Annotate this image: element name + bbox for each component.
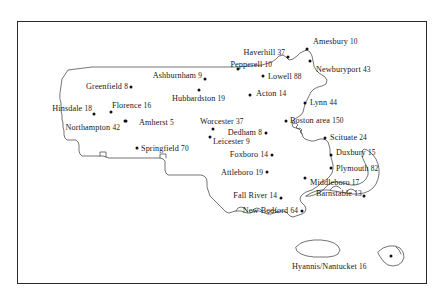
city-name: Haverhill	[243, 48, 277, 57]
city-name: Pepperell	[230, 60, 264, 69]
city-value: 16	[359, 262, 367, 271]
city-dot	[198, 89, 201, 92]
city-dot	[287, 56, 290, 59]
city-label: Acton 14	[256, 89, 286, 98]
city-label: Dedham 8	[228, 128, 262, 137]
city-label: Attleboro 19	[221, 168, 263, 177]
city-dot	[124, 120, 127, 123]
city-name: Boston area	[290, 116, 332, 125]
city-value: 9	[246, 137, 250, 146]
city-value: 37	[277, 48, 285, 57]
city-value: 64	[290, 206, 298, 215]
city-dot	[306, 48, 309, 51]
city-dot	[136, 147, 139, 150]
city-dot	[390, 255, 393, 258]
city-dot	[271, 154, 274, 157]
city-value: 16	[144, 101, 152, 110]
city-dot	[212, 128, 215, 131]
city-value: 44	[329, 98, 337, 107]
city-label: Middleboro 17	[310, 178, 359, 187]
city-value: 37	[236, 117, 244, 126]
city-value: 24	[359, 133, 367, 142]
city-name: Hubbardston	[172, 94, 218, 103]
city-name: Lowell	[268, 72, 294, 81]
city-dot	[301, 210, 304, 213]
city-name: Amherst	[139, 118, 170, 127]
city-name: Fall River	[233, 191, 269, 200]
massachusetts-map-figure: Amesbury 10Haverhill 37Newburyport 43Pep…	[0, 0, 445, 305]
city-dot	[309, 60, 312, 63]
city-dot	[266, 171, 269, 174]
city-dot	[330, 167, 333, 170]
city-value: 14	[260, 150, 268, 159]
city-value: 17	[352, 178, 360, 187]
city-dot	[304, 177, 307, 180]
city-value: 88	[294, 72, 302, 81]
city-value: 43	[363, 65, 371, 74]
city-value: 82	[371, 164, 379, 173]
city-label: Boston area 150	[290, 116, 344, 125]
city-label: Pepperell 10	[230, 60, 272, 69]
city-label: Newburyport 43	[316, 65, 371, 74]
city-name: Amesbury	[313, 37, 350, 46]
city-dot	[363, 195, 366, 198]
marthas-vineyard-outline	[296, 240, 340, 257]
city-dot	[280, 197, 283, 200]
city-name: Florence	[112, 101, 144, 110]
city-value: 18	[84, 104, 92, 113]
city-value: 9	[198, 71, 202, 80]
city-label: New Bedford 64	[243, 206, 298, 215]
city-dot	[249, 94, 252, 97]
city-name: Springfield	[141, 144, 181, 153]
city-value: 150	[332, 116, 343, 125]
city-value: 8	[124, 82, 128, 91]
city-dot	[204, 78, 207, 81]
massachusetts-outline	[0, 0, 445, 305]
city-name: Hinsdale	[52, 104, 84, 113]
city-dot	[324, 137, 327, 140]
city-name: Attleboro	[221, 168, 255, 177]
city-name: Foxboro	[230, 150, 261, 159]
city-name: Ashburnham	[153, 71, 198, 80]
city-label: Duxbury 15	[336, 148, 376, 157]
city-dot	[93, 113, 96, 116]
city-name: Duxbury	[336, 148, 368, 157]
city-value: 10	[350, 37, 358, 46]
city-name: New Bedford	[243, 206, 291, 215]
city-name: Scituate	[330, 133, 359, 142]
city-name: Worcester	[200, 117, 236, 126]
city-label: Lynn 44	[310, 98, 337, 107]
city-value: 19	[255, 168, 263, 177]
city-label: Northampton 42	[65, 123, 120, 132]
city-label: Foxboro 14	[230, 150, 268, 159]
city-dot	[110, 111, 113, 114]
city-name: Leicester	[213, 137, 246, 146]
state-border-notch-east	[160, 154, 166, 158]
city-dot	[285, 120, 288, 123]
city-name: Newburyport	[316, 65, 363, 74]
city-label: Hubbardston 19	[172, 94, 225, 103]
city-name: Barnstable	[316, 189, 354, 198]
city-label: Amesbury 10	[313, 37, 358, 46]
city-name: Lynn	[310, 98, 329, 107]
city-value: 5	[170, 118, 174, 127]
city-dot	[330, 154, 333, 157]
city-name: Northampton	[65, 123, 112, 132]
city-value: 15	[368, 148, 376, 157]
city-label: Plymouth 82	[336, 164, 378, 173]
city-label: Leicester 9	[213, 137, 250, 146]
city-value: 13	[354, 189, 362, 198]
city-value: 42	[112, 123, 120, 132]
city-dot	[265, 132, 268, 135]
city-label: Hyannis/Nantucket 16	[292, 262, 367, 271]
city-name: Greenfield	[86, 82, 124, 91]
city-name: Dedham	[228, 128, 258, 137]
city-label: Hinsdale 18	[52, 104, 92, 113]
city-label: Springfield 70	[141, 144, 189, 153]
city-dot	[209, 136, 212, 139]
city-name: Middleboro	[310, 178, 352, 187]
city-value: 10	[264, 60, 272, 69]
city-label: Haverhill 37	[243, 48, 285, 57]
city-value: 8	[258, 128, 262, 137]
city-label: Ashburnham 9	[153, 71, 202, 80]
